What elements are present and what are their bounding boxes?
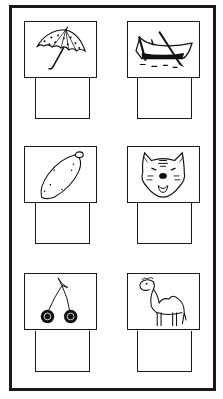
answer-box[interactable] [35,78,90,119]
answer-box[interactable] [35,331,90,372]
sweet-potato-icon [25,147,96,202]
answer-box[interactable] [137,331,192,372]
boat-icon [128,22,199,77]
picture-box [24,273,97,330]
picture-box [127,146,200,203]
tiger-icon [128,147,199,202]
umbrella-icon [25,22,96,77]
cherries-icon [25,274,96,329]
picture-box [24,146,97,203]
camel-icon [128,274,199,329]
answer-box[interactable] [35,203,90,244]
answer-box[interactable] [137,78,192,119]
picture-box [127,273,200,330]
answer-box[interactable] [137,203,192,244]
picture-box [127,21,200,78]
picture-box [24,21,97,78]
